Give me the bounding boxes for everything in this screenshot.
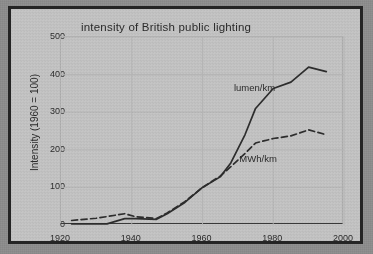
series-line-mwh-km <box>72 130 327 221</box>
x-tick-1920: 1920 <box>50 233 70 243</box>
series-label-mwh-per-km: MWh/km <box>239 153 276 164</box>
x-axis-ticks: 19201940196019802000 <box>11 233 366 247</box>
y-axis-ticks: 0100200300400500 <box>25 9 65 247</box>
x-tick-1940: 1940 <box>121 233 141 243</box>
x-tick-1960: 1960 <box>191 233 211 243</box>
x-tick-2000: 2000 <box>333 233 353 243</box>
series-line-lumen-km <box>72 67 327 224</box>
x-tick-1980: 1980 <box>262 233 282 243</box>
plot-area <box>60 36 343 224</box>
series-canvas <box>61 37 344 225</box>
chart-title: intensity of British public lighting <box>81 21 251 33</box>
series-label-lumen-per-km: lumen/km <box>234 81 275 92</box>
chart-figure: intensity of British public lighting Int… <box>0 0 373 254</box>
chart-frame: intensity of British public lighting Int… <box>8 6 363 244</box>
